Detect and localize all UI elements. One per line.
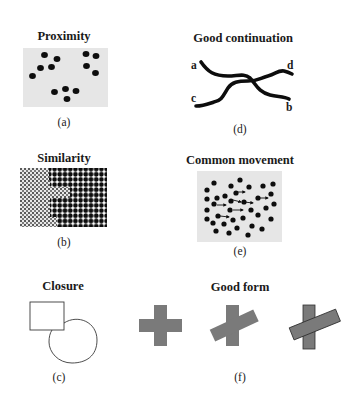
similarity-title: Similarity xyxy=(37,151,90,166)
figure-canvas xyxy=(0,0,362,407)
line-label-a: a xyxy=(191,59,197,71)
closure-square xyxy=(30,302,64,330)
bar-over-bar xyxy=(289,305,340,349)
closure-title: Closure xyxy=(42,279,83,294)
closure-ellipse xyxy=(49,319,97,363)
caption-c: (c) xyxy=(53,371,66,383)
good-form-title: Good form xyxy=(211,280,270,295)
proximity-title: Proximity xyxy=(37,29,90,44)
good-form-shapes xyxy=(139,305,340,349)
caption-e: (e) xyxy=(234,245,247,257)
line-label-c: c xyxy=(191,92,196,104)
plus-shape xyxy=(139,305,182,346)
caption-a: (a) xyxy=(58,116,71,128)
line-label-d: d xyxy=(287,59,293,71)
plus-with-tilted-bar xyxy=(210,305,259,346)
caption-f: (f) xyxy=(234,371,246,383)
caption-d: (d) xyxy=(233,123,246,135)
closure-shapes xyxy=(30,302,97,363)
similarity-grid xyxy=(20,168,107,227)
common-movement-title: Common movement xyxy=(186,153,294,168)
proximity-panel xyxy=(23,48,108,107)
common-movement-panel xyxy=(197,171,282,242)
good-continuation-lines xyxy=(196,62,292,106)
line-label-b: b xyxy=(286,101,292,113)
caption-b: (b) xyxy=(57,236,70,248)
good-continuation-title: Good continuation xyxy=(193,31,293,46)
